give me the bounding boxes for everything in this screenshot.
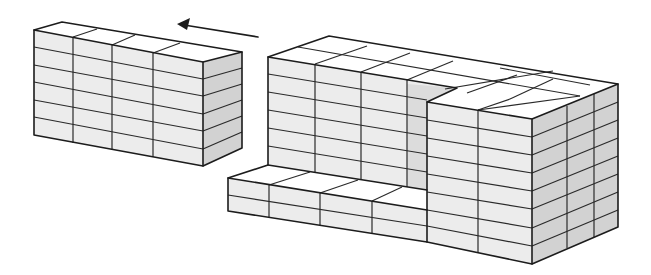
- arrow-left-icon: [177, 18, 258, 37]
- brick-diagram: [0, 0, 651, 275]
- left-brick-stack: [34, 22, 242, 166]
- right-brick-assembly: [228, 36, 618, 264]
